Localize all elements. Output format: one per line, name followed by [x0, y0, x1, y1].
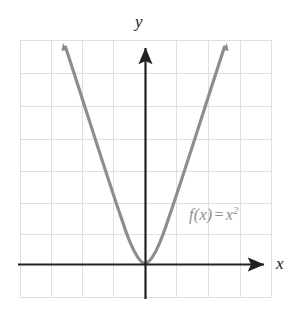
function-argument: (x) — [194, 206, 213, 223]
graph-figure: y x f(x)=x2 — [0, 0, 296, 309]
function-exponent: 2 — [233, 205, 238, 216]
function-equation-label: f(x)=x2 — [189, 205, 238, 224]
graph-canvas — [0, 0, 296, 309]
x-axis-label: x — [276, 255, 284, 272]
y-axis-label: y — [135, 13, 143, 30]
equals-sign: = — [212, 206, 225, 223]
